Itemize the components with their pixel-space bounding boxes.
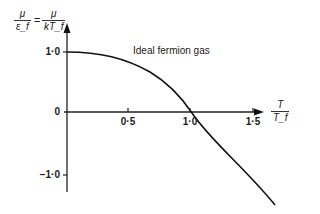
x-tick-label-10: 1·0: [175, 116, 205, 127]
y-tick-label-0: 0: [20, 106, 60, 117]
x-axis-arrow-icon: [254, 109, 264, 116]
x-tick-label-05: 0·5: [113, 116, 143, 127]
y-tick-label-1: 1·0: [20, 46, 60, 57]
x-label-numerator: T: [271, 99, 289, 112]
y-label-right-numerator: μ: [42, 8, 65, 21]
y-label-left-numerator: μ: [14, 8, 31, 21]
y-label-right-denominator: kT_f: [42, 21, 65, 33]
x-tick-label-15: 1·5: [238, 116, 268, 127]
x-label-denominator: T_f: [271, 112, 289, 124]
y-label-left-denominator: ε_f: [14, 21, 31, 33]
y-label-left-fraction: μ ε_f: [14, 8, 31, 33]
x-axis-label-fraction: T T_f: [271, 99, 289, 124]
y-label-right-fraction: μ kT_f: [42, 8, 65, 33]
y-tick-label-minus1: −1·0: [20, 169, 60, 180]
fermion-curve: [67, 52, 275, 205]
curve-annotation: Ideal fermion gas: [133, 45, 210, 56]
y-label-equals: =: [34, 14, 40, 26]
